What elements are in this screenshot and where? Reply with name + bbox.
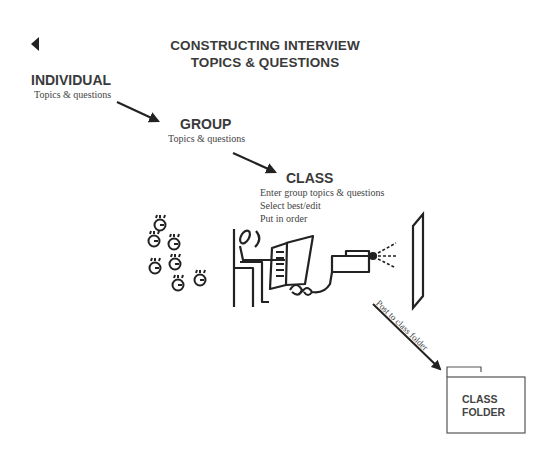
arrow-group-to-class (233, 153, 275, 172)
folder-label-line2: FOLDER (462, 406, 505, 419)
person-at-computer-icon (234, 229, 376, 307)
folder-label-line1: CLASS (462, 393, 505, 406)
arrow-individual-to-group (117, 102, 158, 121)
group-of-people-icon (149, 215, 206, 291)
folder-label[interactable]: CLASS FOLDER (462, 393, 505, 419)
diagram-drawing (0, 0, 559, 455)
projector-beam-icon (378, 243, 398, 268)
projection-screen-icon (413, 214, 423, 308)
